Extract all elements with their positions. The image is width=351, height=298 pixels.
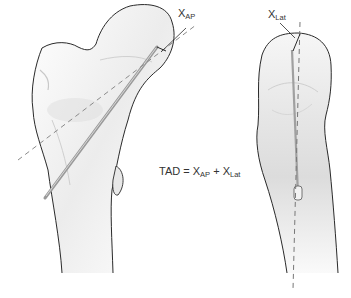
formula-term1-sub: AP [200,170,210,179]
lateral-femur [257,22,338,290]
label-xlat: XLat [268,9,286,22]
label-xap: XAP [178,8,195,21]
ap-femur-outline [32,5,174,273]
formula-term1: X [193,165,200,177]
ap-shade [47,98,103,122]
formula-term2-sub: Lat [230,170,240,179]
label-xlat-sub: Lat [275,13,285,22]
ap-femur [18,5,196,273]
lateral-femur-outline [257,33,338,273]
formula-plus: + [210,165,223,177]
diagram-canvas [0,0,351,298]
tad-formula: TAD = XAP + XLat [159,166,240,179]
formula-lhs: TAD = [159,165,193,177]
formula-term2: X [223,165,230,177]
label-xap-sub: AP [185,12,195,21]
